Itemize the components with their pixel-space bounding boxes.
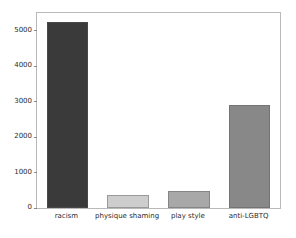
y-tick-mark (34, 30, 37, 31)
bar-chart-figure: 010002000300040005000 racismphysique sha… (0, 0, 296, 238)
y-tick-label: 2000 (14, 132, 32, 141)
bar (107, 195, 148, 208)
y-tick-label: 5000 (14, 26, 32, 35)
x-tick-label: physique shaming (95, 211, 159, 221)
y-tick-mark (34, 137, 37, 138)
x-tick-label: play style (171, 211, 205, 221)
x-tick-label: racism (55, 211, 78, 221)
y-tick-label: 3000 (14, 97, 32, 106)
y-tick-label: 0 (28, 203, 32, 212)
y-tick-mark (34, 172, 37, 173)
y-tick-mark (34, 66, 37, 67)
y-tick-label: 1000 (14, 168, 32, 177)
bar (229, 105, 270, 208)
x-tick-label: anti-LGBTQ (229, 211, 269, 221)
y-tick-label: 4000 (14, 61, 32, 70)
y-tick-mark (34, 208, 37, 209)
bar (47, 22, 88, 208)
bar (168, 191, 209, 208)
plot-area: 010002000300040005000 (36, 12, 281, 209)
y-tick-mark (34, 101, 37, 102)
